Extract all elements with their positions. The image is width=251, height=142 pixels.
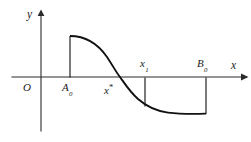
point-label-b0-subscript: 0 xyxy=(204,66,207,73)
sigmoid-curve xyxy=(70,36,206,114)
figure-container: y x O A0 x* x1 B0 xyxy=(0,0,251,142)
point-label-b0-base: B xyxy=(197,57,204,69)
point-label-a0-subscript: 0 xyxy=(69,90,72,97)
figure-canvas xyxy=(0,0,251,142)
x-axis-label: x xyxy=(231,60,236,72)
y-axis-label: y xyxy=(27,9,32,21)
point-label-x1-subscript: 1 xyxy=(145,66,148,73)
point-label-x1: x1 xyxy=(140,58,148,72)
origin-label: O xyxy=(23,82,31,93)
y-axis-arrow-icon xyxy=(38,10,45,17)
point-label-x-star-superscript: * xyxy=(109,82,113,92)
point-label-a0-base: A xyxy=(62,81,69,93)
point-label-a0: A0 xyxy=(62,82,72,96)
point-label-x-star: x* xyxy=(104,82,113,96)
point-label-b0: B0 xyxy=(197,58,207,72)
x-axis-arrow-icon xyxy=(241,73,249,80)
